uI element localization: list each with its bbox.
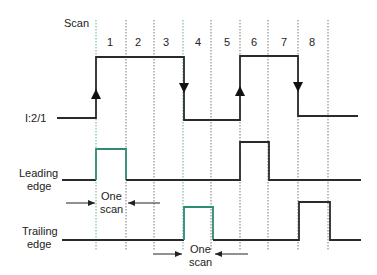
scan-number: 2 — [135, 36, 141, 48]
one-scan-label-line2: scan — [189, 256, 212, 268]
scan-number: 4 — [195, 36, 201, 48]
trailing-edge-waveform — [213, 202, 361, 240]
leading-edge-waveform — [126, 142, 361, 180]
scan-number: 5 — [224, 36, 230, 48]
one-scan-label-line1: One — [101, 190, 122, 202]
scan-number: 1 — [107, 36, 113, 48]
one-scan-label-line1: One — [190, 243, 211, 255]
rising-edge-arrow-icon — [235, 86, 245, 96]
scan-number: 3 — [163, 36, 169, 48]
leading-edge-pulse-highlight — [96, 149, 126, 180]
leading-edge-label-line1: Leading — [19, 167, 58, 179]
timing-diagram: Scan 1 2 3 4 5 6 7 8 I:2/1 Leading edge … — [0, 0, 377, 275]
input-signal-label: I:2/1 — [25, 112, 46, 124]
trailing-edge-label-line1: Trailing — [22, 225, 58, 237]
rising-edge-arrow-icon — [91, 89, 101, 99]
falling-edge-arrow-icon — [179, 83, 189, 93]
scan-number: 6 — [251, 36, 257, 48]
scan-number: 7 — [281, 36, 287, 48]
falling-edge-arrow-icon — [293, 82, 303, 92]
trailing-edge-label-line2: edge — [27, 238, 51, 250]
scan-gridlines — [96, 20, 328, 250]
leading-edge-label-line2: edge — [27, 180, 51, 192]
scan-label: Scan — [64, 17, 89, 29]
trailing-edge-pulse-highlight — [184, 207, 213, 240]
scan-number: 8 — [309, 36, 315, 48]
input-signal-waveform — [57, 56, 358, 120]
one-scan-label-line2: scan — [100, 203, 123, 215]
